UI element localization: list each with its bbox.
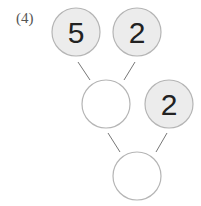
node-value: 5 [68,16,85,49]
node-bottom-blank[interactable] [113,152,161,200]
number-tree-diagram: 5 2 2 [0,0,201,206]
node-top-left: 5 [52,8,100,56]
connector-line [124,62,135,80]
connector-line [78,62,90,80]
node-top-right: 2 [113,8,161,56]
node-value: 2 [129,16,146,49]
connector-line [108,133,120,152]
connector-line [156,133,167,152]
node-middle-right: 2 [145,80,193,128]
node-value: 2 [161,88,178,121]
node-middle-blank[interactable] [82,80,130,128]
